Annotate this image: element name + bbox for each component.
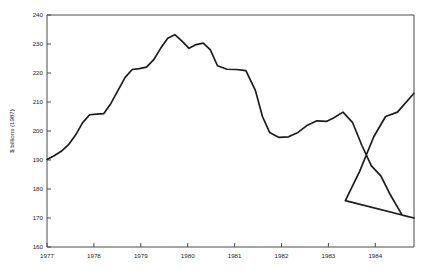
y-tick-label: 170 [33,214,44,221]
y-tick-label: 210 [33,98,44,105]
y-axis-title: $ billions (1987) [8,109,15,153]
x-tick-label: 1980 [181,252,195,259]
chart-background [0,0,429,270]
x-tick-label: 1978 [87,252,101,259]
x-tick-label: 1983 [322,252,336,259]
y-tick-label: 230 [33,40,44,47]
chart-container: 240 230 220 210 200 190 180 170 160 1977… [0,0,429,270]
x-tick-label: 1981 [228,252,242,259]
x-tick-label: 1982 [275,252,289,259]
y-tick-label: 190 [33,156,44,163]
y-tick-label: 220 [33,69,44,76]
y-tick-label: 160 [33,243,44,250]
y-axis-tick-labels: 240 230 220 210 200 190 180 170 160 [33,11,44,250]
x-tick-label: 1979 [134,252,148,259]
x-tick-label: 1977 [40,252,54,259]
y-tick-label: 180 [33,185,44,192]
x-tick-label: 1984 [368,252,382,259]
line-chart: 240 230 220 210 200 190 180 170 160 1977… [0,0,429,270]
y-tick-label: 240 [33,11,44,18]
y-tick-label: 200 [33,127,44,134]
